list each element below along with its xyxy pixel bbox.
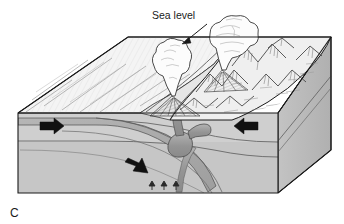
panel-label: C xyxy=(10,206,19,220)
sea-level-label: Sea level xyxy=(152,9,195,21)
figure-root: Sea level C xyxy=(0,0,344,224)
subduction-block-diagram: Sea level C xyxy=(0,0,344,224)
